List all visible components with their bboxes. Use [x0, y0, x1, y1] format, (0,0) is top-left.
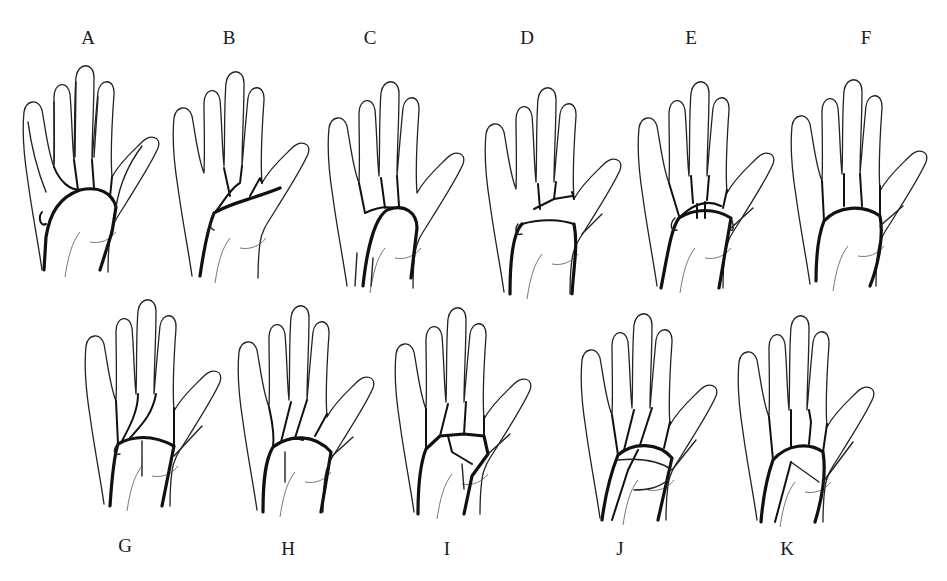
- arterial-arch-icon: [355, 176, 417, 286]
- arterial-arch-icon: [816, 174, 903, 286]
- panel-label-c: C: [364, 27, 377, 49]
- arterial-arch-icon: [761, 410, 853, 522]
- hand-illustration-j: [578, 310, 728, 525]
- hand-outline-icon: [485, 88, 621, 294]
- hand-illustration-c: [325, 78, 475, 293]
- hand-illustration-i: [392, 304, 542, 519]
- arterial-arch-icon: [661, 176, 753, 288]
- hand-illustration-e: [635, 78, 785, 293]
- panel-label-j: J: [616, 538, 623, 560]
- panel-label-k: K: [780, 538, 794, 560]
- arterial-arch-icon: [28, 82, 142, 270]
- hand-illustration-d: [482, 84, 632, 299]
- panel-label-f: F: [861, 27, 872, 49]
- panel-label-g: G: [118, 535, 132, 557]
- panel-label-a: A: [81, 27, 95, 49]
- arterial-arch-icon: [110, 394, 202, 506]
- arterial-arch-icon: [418, 402, 510, 514]
- hand-outline-icon: [791, 80, 927, 286]
- panel-label-h: H: [281, 538, 295, 560]
- panel-label-i: I: [444, 538, 450, 560]
- hand-outline-icon: [638, 82, 774, 288]
- hand-outline-icon: [238, 306, 374, 512]
- hand-outline-icon: [738, 316, 874, 522]
- hand-illustration-a: [20, 62, 170, 277]
- hand-outline-icon: [23, 66, 159, 272]
- arterial-arch-icon: [263, 400, 353, 512]
- panel-label-b: B: [223, 27, 236, 49]
- hand-illustration-b: [170, 68, 320, 283]
- arterial-arch-icon: [510, 182, 602, 294]
- panel-label-d: D: [520, 27, 534, 49]
- panel-label-e: E: [685, 27, 697, 49]
- hand-outline-icon: [328, 82, 464, 288]
- hand-illustration-h: [235, 302, 385, 517]
- hand-illustration-k: [735, 312, 885, 527]
- arterial-arch-icon: [602, 408, 696, 520]
- hand-illustration-g: [82, 296, 232, 511]
- hand-illustration-f: [788, 76, 938, 291]
